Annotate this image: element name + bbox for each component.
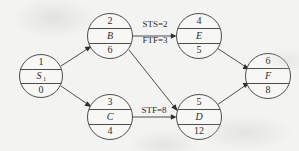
node-c-duration: 4 xyxy=(108,125,113,136)
node-b-number: 2 xyxy=(108,15,113,26)
node-d-number: 5 xyxy=(197,96,202,107)
node-s1-subscript: 1 xyxy=(43,75,46,82)
edge-s1-to-c xyxy=(61,86,92,107)
node-b[interactable]: 2 B 6 xyxy=(88,14,133,59)
precedence-network-diagram: STS=2 FTF=3 STF=8 1 S 1 0 2 B 6 3 xyxy=(0,0,299,151)
node-c[interactable]: 3 C 4 xyxy=(88,95,133,140)
node-b-duration: 6 xyxy=(108,44,113,55)
arrowhead-b-e xyxy=(171,33,177,39)
node-c-name: C xyxy=(107,111,114,122)
edge-label-stf: STF=8 xyxy=(141,105,167,115)
node-f-duration: 8 xyxy=(266,84,271,95)
edge-label-ftf: FTF=3 xyxy=(142,35,168,45)
node-f-name: F xyxy=(264,70,272,81)
arrowhead-b-d xyxy=(171,104,177,111)
node-f-number: 6 xyxy=(266,55,271,66)
node-f[interactable]: 6 F 8 xyxy=(246,54,291,99)
arrowhead-c-d xyxy=(171,114,177,120)
node-e-name: E xyxy=(195,30,202,41)
edge-s1-to-b xyxy=(61,46,92,66)
edge-label-sts: STS=2 xyxy=(142,19,167,29)
edge-d-to-f xyxy=(217,83,249,105)
node-d-name: D xyxy=(194,111,203,122)
node-c-number: 3 xyxy=(108,96,113,107)
node-s1-number: 1 xyxy=(39,56,44,67)
node-s1-duration: 0 xyxy=(39,84,44,95)
node-d-duration: 12 xyxy=(194,125,204,136)
network-canvas: STS=2 FTF=3 STF=8 1 S 1 0 2 B 6 3 xyxy=(0,0,299,151)
node-e-number: 4 xyxy=(197,15,202,26)
edge-e-to-f xyxy=(217,48,249,69)
node-e-duration: 5 xyxy=(197,44,202,55)
node-e[interactable]: 4 E 5 xyxy=(177,14,222,59)
edge-b-to-d xyxy=(129,50,178,111)
node-b-name: B xyxy=(107,30,113,41)
node-d[interactable]: 5 D 12 xyxy=(177,95,222,140)
node-s1[interactable]: 1 S 1 0 xyxy=(20,55,63,98)
node-s1-name: S xyxy=(37,70,42,81)
